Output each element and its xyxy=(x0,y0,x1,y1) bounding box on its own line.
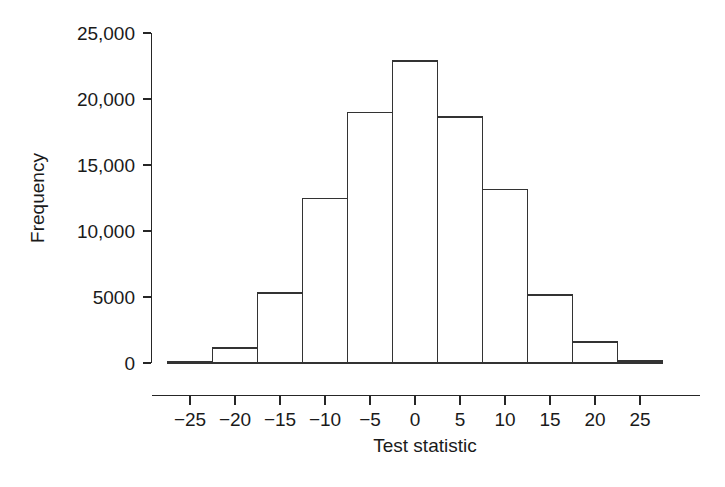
y-axis-tick-labels: 0500010,00015,00020,00025,000 xyxy=(77,23,135,374)
histogram-bar xyxy=(258,293,303,363)
histogram-bar xyxy=(528,295,573,363)
x-tick-label: 0 xyxy=(410,409,421,430)
x-tick-label: 5 xyxy=(455,409,466,430)
histogram-figure: 0500010,00015,00020,00025,000 Frequency … xyxy=(0,0,725,487)
x-tick-label: −5 xyxy=(359,409,381,430)
x-tick-label: −10 xyxy=(309,409,341,430)
histogram-bar xyxy=(213,348,258,363)
histogram-bar xyxy=(393,61,438,363)
x-tick-label: −15 xyxy=(264,409,296,430)
histogram-bar xyxy=(438,117,483,363)
y-axis-title: Frequency xyxy=(27,153,48,243)
y-tick-label: 10,000 xyxy=(77,221,135,242)
x-axis-tick-labels: −25−20−15−10−50510152025 xyxy=(174,409,651,430)
histogram-bar xyxy=(303,199,348,363)
histogram-bars xyxy=(168,61,663,363)
x-tick-label: 10 xyxy=(494,409,515,430)
y-tick-label: 5000 xyxy=(93,287,135,308)
y-tick-label: 25,000 xyxy=(77,23,135,44)
histogram-bar xyxy=(348,112,393,363)
x-tick-label: 25 xyxy=(629,409,650,430)
x-tick-label: 20 xyxy=(584,409,605,430)
y-tick-label: 20,000 xyxy=(77,89,135,110)
x-tick-label: −20 xyxy=(219,409,251,430)
histogram-svg: 0500010,00015,00020,00025,000 Frequency … xyxy=(0,0,725,487)
histogram-bar xyxy=(483,189,528,363)
y-tick-label: 15,000 xyxy=(77,155,135,176)
histogram-bar xyxy=(573,342,618,363)
x-axis-ticks xyxy=(190,396,640,405)
x-axis-title: Test statistic xyxy=(373,435,476,456)
y-axis-ticks xyxy=(143,33,151,363)
x-tick-label: −25 xyxy=(174,409,206,430)
y-tick-label: 0 xyxy=(124,353,135,374)
x-tick-label: 15 xyxy=(539,409,560,430)
